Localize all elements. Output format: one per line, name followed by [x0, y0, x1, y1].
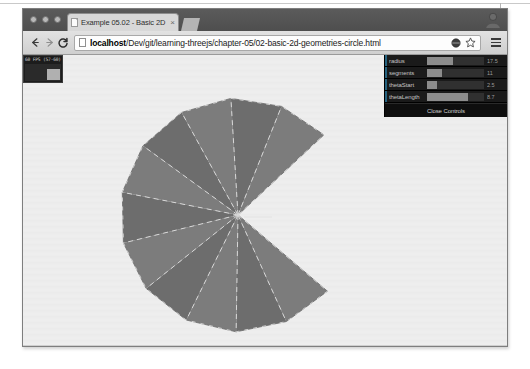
datgui-slider-fill — [427, 69, 442, 77]
menu-bar-2 — [491, 42, 501, 44]
datgui-panel: radius17.5segments11thetaStart2.5thetaLe… — [384, 55, 507, 117]
tab-favicon-icon — [71, 18, 78, 27]
page-root: Example 05.02 - Basic 2D × — [0, 0, 530, 369]
datgui-slider-thetalength[interactable] — [427, 93, 484, 101]
extension-circle-icon[interactable] — [450, 37, 461, 48]
datgui-slider-fill — [427, 81, 437, 89]
window-controls — [30, 16, 61, 23]
webgl-viewport[interactable]: 60 FPS (57-60) radius17.5segments11theta… — [23, 55, 507, 346]
minimize-window-button[interactable] — [42, 16, 49, 23]
datgui-label: segments — [389, 70, 427, 76]
menu-bar-3 — [491, 45, 501, 47]
datgui-row-radius[interactable]: radius17.5 — [385, 55, 507, 67]
url-host: localhost — [90, 38, 126, 48]
url-text: localhost/Dev/git/learning-threejs/chapt… — [90, 38, 447, 48]
datgui-slider-segments[interactable] — [427, 69, 484, 77]
datgui-slider-fill — [427, 93, 468, 101]
profile-avatar-icon[interactable] — [484, 11, 502, 29]
datgui-row-segments[interactable]: segments11 — [385, 67, 507, 79]
back-button[interactable] — [28, 35, 42, 51]
datgui-rows: radius17.5segments11thetaStart2.5thetaLe… — [385, 55, 507, 103]
fps-graph — [25, 64, 61, 81]
datgui-slider-thetastart[interactable] — [427, 81, 484, 89]
page-info-icon[interactable] — [79, 38, 86, 47]
datgui-label: radius — [389, 58, 427, 64]
hamburger-menu-icon[interactable] — [489, 36, 502, 50]
omnibox-actions — [447, 37, 476, 48]
star-icon[interactable] — [465, 37, 476, 48]
forward-button[interactable] — [42, 35, 56, 51]
page-top-rule — [0, 3, 530, 4]
datgui-slider-radius[interactable] — [427, 57, 484, 65]
datgui-value[interactable]: 17.5 — [487, 58, 507, 64]
datgui-row-thetalength[interactable]: thetaLength8.7 — [385, 91, 507, 103]
zoom-window-button[interactable] — [54, 16, 61, 23]
menu-bar-1 — [491, 38, 501, 40]
tab-close-icon[interactable]: × — [168, 19, 175, 27]
fps-stats-widget[interactable]: 60 FPS (57-60) — [23, 55, 63, 83]
reload-button[interactable] — [56, 35, 70, 51]
datgui-value[interactable]: 2.5 — [487, 82, 507, 88]
tab-title: Example 05.02 - Basic 2D — [81, 18, 168, 27]
address-bar[interactable]: localhost/Dev/git/learning-threejs/chapt… — [74, 35, 481, 51]
url-path: /Dev/git/learning-threejs/chapter-05/02-… — [126, 38, 381, 48]
datgui-label: thetaStart — [389, 82, 427, 88]
close-controls-button[interactable]: Close Controls — [385, 103, 507, 117]
datgui-value[interactable]: 8.7 — [487, 94, 507, 100]
browser-toolbar: localhost/Dev/git/learning-threejs/chapt… — [23, 31, 507, 55]
viewport-bottom-edge — [23, 345, 507, 346]
datgui-slider-fill — [427, 57, 453, 65]
new-tab-button[interactable] — [181, 18, 200, 31]
datgui-row-thetastart[interactable]: thetaStart2.5 — [385, 79, 507, 91]
browser-tab[interactable]: Example 05.02 - Basic 2D × — [67, 13, 179, 31]
fps-graph-bar — [47, 69, 60, 80]
datgui-label: thetaLength — [389, 94, 427, 100]
tab-strip: Example 05.02 - Basic 2D × — [23, 9, 507, 31]
close-window-button[interactable] — [30, 16, 37, 23]
datgui-value[interactable]: 11 — [487, 70, 507, 76]
fps-readout: 60 FPS (57-60) — [24, 56, 62, 63]
browser-window: Example 05.02 - Basic 2D × — [22, 8, 508, 347]
